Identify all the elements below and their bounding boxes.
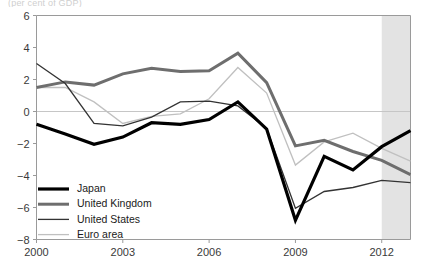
y-tick-label: 4 <box>23 42 29 54</box>
data-series-group <box>37 53 411 220</box>
x-tick-label: 2000 <box>24 246 48 258</box>
y-tick-label: −2 <box>17 138 30 150</box>
chart-container: (per cent of GDP) 6420−2−4−6−8 200020032… <box>0 0 422 267</box>
y-tick-label: 6 <box>23 10 29 22</box>
x-tick-label: 2003 <box>111 246 135 258</box>
y-tick-label: −8 <box>17 234 30 246</box>
legend-label-united-states: United States <box>77 213 140 225</box>
series-line-united-kingdom <box>37 53 411 175</box>
y-tick-label: −6 <box>17 202 30 214</box>
forecast-shaded-region <box>382 16 411 240</box>
x-tick-label: 2012 <box>369 246 393 258</box>
y-tick-label: −4 <box>17 170 30 182</box>
y-axis-tick-labels: 6420−2−4−6−8 <box>17 10 37 246</box>
x-tick-label: 2009 <box>283 246 307 258</box>
chart-legend: JapanUnited KingdomUnited StatesEuro are… <box>38 182 152 240</box>
line-chart-plot: 6420−2−4−6−8 20002003200620092012 JapanU… <box>0 0 422 267</box>
x-axis-tick-labels: 20002003200620092012 <box>24 240 394 258</box>
forecast-band <box>382 16 411 240</box>
x-tick-label: 2006 <box>197 246 221 258</box>
y-tick-label: 2 <box>23 74 29 86</box>
legend-label-japan: Japan <box>77 182 106 194</box>
y-tick-label: 0 <box>23 106 29 118</box>
legend-label-euro-area: Euro area <box>77 228 123 240</box>
legend-label-united-kingdom: United Kingdom <box>77 197 152 209</box>
